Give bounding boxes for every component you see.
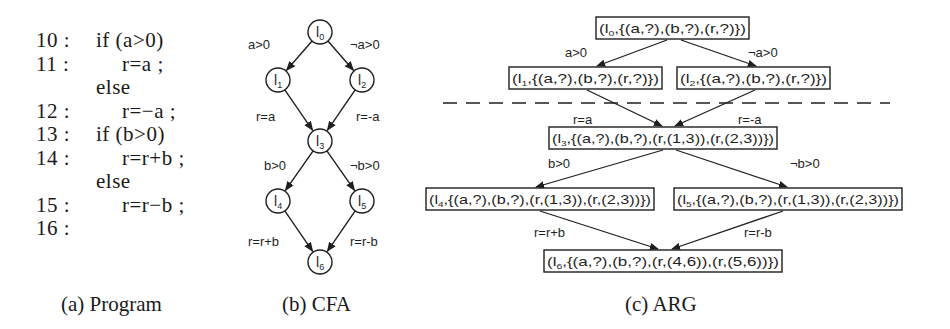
arg-node-label: (l6,{(a,?),(b,?),(r,(4,6)),(r,(5,6))}) [547,254,779,271]
arg-edge [597,40,667,66]
cfa-edge-label: r=a [256,109,276,124]
cfa-node-l1: l1 [266,68,290,92]
arg-node-label: (l3,{(a,?),(b,?),(r,(1,3)),(r,(2,3))}) [552,131,774,148]
cfa-node-l4: l4 [266,189,290,213]
cfa-edge-label: b>0 [264,158,286,173]
arg-nodes: (l0,{(a,?),(b,?),(r,?)})(l1,{(a,?),(b,?)… [426,17,902,272]
arg-edge-label: r=r+b [534,225,565,240]
cfa-node-l3: l3 [308,129,332,153]
arg-node-n3: (l3,{(a,?),(b,?),(r,(1,3)),(r,(2,3))}) [549,127,777,149]
cfa-edge-label: r=-a [356,109,380,124]
cfa-edge-label: ¬a>0 [350,37,380,52]
arg-node-label: (l4,{(a,?),(b,?),(r,(1,3)),(r,(2,3))}) [429,192,651,209]
cfa-edge-label: a>0 [248,37,270,52]
arg-node-n6: (l6,{(a,?),(b,?),(r,(4,6)),(r,(5,6))}) [544,250,782,272]
cfa-caption: (b) CFA [282,292,351,317]
arg-node-label: (l5,{(a,?),(b,?),(r,(1,3)),(r,(2,3))}) [677,192,899,209]
arg-node-label: (l1,{(a,?),(b,?),(r,?)}) [512,71,659,88]
arg-edge-label: r=a [573,112,593,127]
cfa-node-l2: l2 [350,68,374,92]
cfa-edge [285,211,313,251]
cfa-edge-label: r=r-b [350,234,378,249]
cfa-node-l5: l5 [350,189,374,213]
arg-node-label: (l2,{(a,?),(b,?),(r,?)}) [680,71,827,88]
cfa-edge [327,90,355,130]
cfa-node-l6: l6 [308,250,332,274]
arg-edge-label: ¬b>0 [790,156,820,171]
arg-caption: (c) ARG [625,292,697,317]
arg-edge [676,150,787,187]
arg-node-n2: (l2,{(a,?),(b,?),(r,?)}) [677,67,830,89]
cfa-edge [285,151,313,191]
arg-node-n4: (l4,{(a,?),(b,?),(r,(1,3)),(r,(2,3))}) [426,188,654,210]
cfa-graph: a>0¬a>0r=ar=-ab>0¬b>0r=r+br=r-b l0l1l2l3… [0,0,950,329]
arg-node-n1: (l1,{(a,?),(b,?),(r,?)}) [509,67,662,89]
arg-edge-label: r=r-b [744,225,772,240]
arg-edge-label: r=-a [738,112,762,127]
arg-edge [587,90,662,126]
cfa-edge-label: ¬b>0 [350,158,380,173]
cfa-node-l0: l0 [308,20,332,44]
arg-node-label: (l0,{(a,?),(b,?),(r,?)}) [599,21,746,38]
cfa-edge [285,90,313,130]
arg-node-n0: (l0,{(a,?),(b,?),(r,?)}) [596,17,749,39]
arg-edge-label: ¬a>0 [748,45,778,60]
arg-node-n5: (l5,{(a,?),(b,?),(r,(1,3)),(r,(2,3))}) [674,188,902,210]
arg-edge-label: a>0 [565,45,587,60]
cfa-edge [287,41,313,70]
arg-edge-label: b>0 [548,156,570,171]
cfa-edge-label: r=r+b [248,234,279,249]
arg-edge [681,40,756,66]
